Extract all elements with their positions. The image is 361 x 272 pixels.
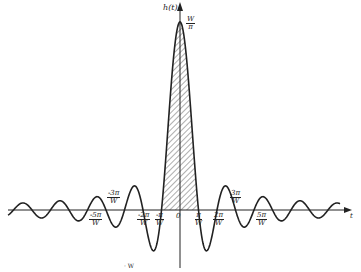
tick-label-p2: 2πW bbox=[213, 212, 224, 227]
peak-label: W π bbox=[186, 16, 195, 31]
tick-den: W bbox=[215, 220, 222, 227]
tick-den: W bbox=[232, 198, 239, 205]
tick-label-p1: πW bbox=[195, 212, 202, 227]
origin-label: 0 bbox=[176, 213, 180, 220]
sinc-plot bbox=[0, 0, 361, 272]
tick-label-p5: 5πW bbox=[256, 212, 267, 227]
peak-label-den: π bbox=[188, 24, 193, 31]
tick-label-m3: -3πW bbox=[107, 190, 120, 205]
tick-den: W bbox=[195, 220, 202, 227]
tick-label-m2: -2πW bbox=[137, 212, 150, 227]
y-axis-label: h(t) bbox=[163, 3, 178, 12]
tick-label-p3: 3πW bbox=[230, 190, 241, 205]
tick-den: W bbox=[110, 198, 117, 205]
tick-den: W bbox=[258, 220, 265, 227]
tick-den: W bbox=[156, 220, 163, 227]
caption-fragment: · W bbox=[124, 262, 134, 269]
tick-den: W bbox=[92, 220, 99, 227]
tick-den: W bbox=[140, 220, 147, 227]
y-axis-arrow-icon bbox=[177, 2, 183, 11]
x-axis-label: t bbox=[350, 212, 353, 220]
tick-label-m1: -πW bbox=[155, 212, 164, 227]
tick-label-m5: -5πW bbox=[89, 212, 102, 227]
